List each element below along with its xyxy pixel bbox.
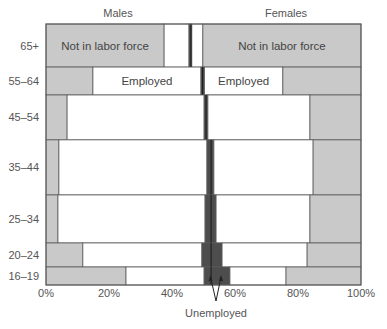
x-tick-label: 60% xyxy=(224,287,246,299)
unemployed-label: Unemployed xyxy=(185,307,247,319)
segment-female-not-in-labor-force xyxy=(307,243,361,267)
x-axis-ticks: 0%20%40%60%80%100% xyxy=(38,287,375,299)
x-tick-label: 40% xyxy=(161,287,183,299)
segment-male-unemployed xyxy=(207,140,211,195)
segment-male-unemployed xyxy=(204,267,211,285)
age-label: 25–34 xyxy=(8,213,39,225)
mosaic-row-45-54 xyxy=(46,95,361,140)
segment-male-unemployed xyxy=(202,243,211,267)
segment-label-male-not-in-labor-force: Not in labor force xyxy=(61,40,149,52)
x-tick-label: 0% xyxy=(38,287,54,299)
x-tick-label: 100% xyxy=(347,287,375,299)
segment-female-employed xyxy=(192,24,203,67)
mosaic-row-55-64: EmployedEmployed xyxy=(46,67,361,95)
segment-male-not-in-labor-force xyxy=(46,95,67,140)
mosaic-row-20-24 xyxy=(46,243,361,267)
age-label: 20–24 xyxy=(8,249,39,261)
age-label: 65+ xyxy=(20,40,39,52)
segment-male-unemployed xyxy=(205,195,211,243)
x-tick-label: 80% xyxy=(287,287,309,299)
segment-male-employed xyxy=(59,140,207,195)
segment-male-employed xyxy=(58,195,205,243)
segment-female-employed xyxy=(208,95,310,140)
mosaic-row-25-34 xyxy=(46,195,361,243)
segment-label-female-not-in-labor-force: Not in labor force xyxy=(238,40,326,52)
segment-female-employed xyxy=(230,267,286,285)
segment-male-not-in-labor-force xyxy=(46,67,93,95)
segment-label-male-employed: Employed xyxy=(121,75,172,87)
segment-male-employed xyxy=(67,95,204,140)
segment-male-not-in-labor-force xyxy=(46,267,126,285)
segment-male-employed xyxy=(83,243,202,267)
segment-female-employed xyxy=(214,140,313,195)
x-tick-label: 20% xyxy=(98,287,120,299)
mosaic-row-65+: Not in labor forceNot in labor force xyxy=(46,24,361,67)
segment-female-unemployed xyxy=(211,243,222,267)
segment-female-unemployed xyxy=(211,267,230,285)
segment-female-unemployed xyxy=(211,195,216,243)
segment-female-not-in-labor-force xyxy=(310,95,361,140)
age-label: 55–64 xyxy=(8,75,39,87)
mosaic-row-35-44 xyxy=(46,140,361,195)
segment-label-female-employed: Employed xyxy=(218,75,269,87)
females-header: Females xyxy=(265,7,308,19)
segment-female-not-in-labor-force xyxy=(283,67,361,95)
age-group-labels: 65+55–6445–5435–4425–3420–2416–19 xyxy=(8,40,39,282)
segment-female-not-in-labor-force xyxy=(310,195,361,243)
segment-male-not-in-labor-force xyxy=(46,140,59,195)
segment-male-not-in-labor-force xyxy=(46,243,83,267)
age-label: 45–54 xyxy=(8,111,39,123)
males-header: Males xyxy=(103,7,133,19)
segment-female-not-in-labor-force xyxy=(313,140,361,195)
mosaic-chart: Males Females Not in labor forceNot in l… xyxy=(0,0,387,329)
segment-female-employed xyxy=(216,195,310,243)
mosaic-row-16-19 xyxy=(46,267,361,285)
segment-male-not-in-labor-force xyxy=(46,195,58,243)
segment-female-not-in-labor-force xyxy=(286,267,361,285)
mosaic-rows: Not in labor forceNot in labor forceEmpl… xyxy=(46,24,361,285)
age-label: 16–19 xyxy=(8,270,39,282)
segment-male-employed xyxy=(164,24,189,67)
segment-female-employed xyxy=(222,243,307,267)
age-label: 35–44 xyxy=(8,161,39,173)
segment-male-employed xyxy=(126,267,204,285)
